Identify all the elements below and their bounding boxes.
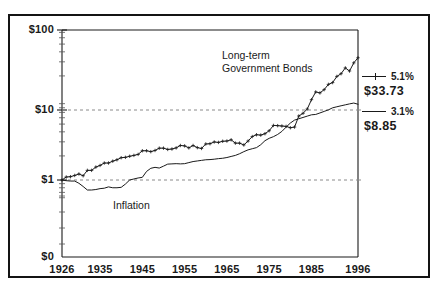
annotation-inflation: Inflation [113, 199, 150, 212]
x-axis-label-1965: 1965 [207, 263, 247, 275]
y-axis-label-10: $10 [8, 103, 54, 115]
legend-marker-line-icon [362, 106, 388, 117]
x-axis-label-1935: 1935 [80, 263, 120, 275]
x-axis-label-1996: 1996 [338, 263, 378, 275]
y-axis-label-1: $1 [8, 173, 54, 185]
annotation-bonds-line1: Long-term [222, 49, 270, 62]
legend: 5.1% $33.73 3.1% $8.85 [362, 70, 436, 140]
x-axis-label-1975: 1975 [249, 263, 289, 275]
legend-bonds-rate: 5.1% [391, 71, 414, 82]
legend-entry-inflation: 3.1% [362, 105, 436, 118]
x-axis-label-1926: 1926 [42, 263, 82, 275]
gridlines [62, 110, 362, 180]
y-axis-label-0: $0 [8, 250, 54, 262]
annotation-bonds-line2: Government Bonds [222, 62, 312, 75]
legend-inflation-value: $8.85 [364, 119, 436, 133]
growth-chart-plot [0, 0, 441, 290]
series-bonds [60, 56, 359, 182]
legend-bonds-value: $33.73 [364, 84, 436, 98]
x-axis-label-1945: 1945 [122, 263, 162, 275]
series-inflation [62, 103, 358, 190]
legend-inflation-rate: 3.1% [391, 106, 414, 117]
legend-marker-plus-line-icon [362, 71, 388, 82]
x-axis-label-1955: 1955 [165, 263, 205, 275]
chart-screenshot: $100 $10 $1 $0 1926 1935 1945 1955 1965 … [0, 0, 441, 290]
legend-entry-bonds: 5.1% [362, 70, 436, 83]
y-axis-label-100: $100 [8, 23, 54, 35]
x-axis-label-1985: 1985 [291, 263, 331, 275]
